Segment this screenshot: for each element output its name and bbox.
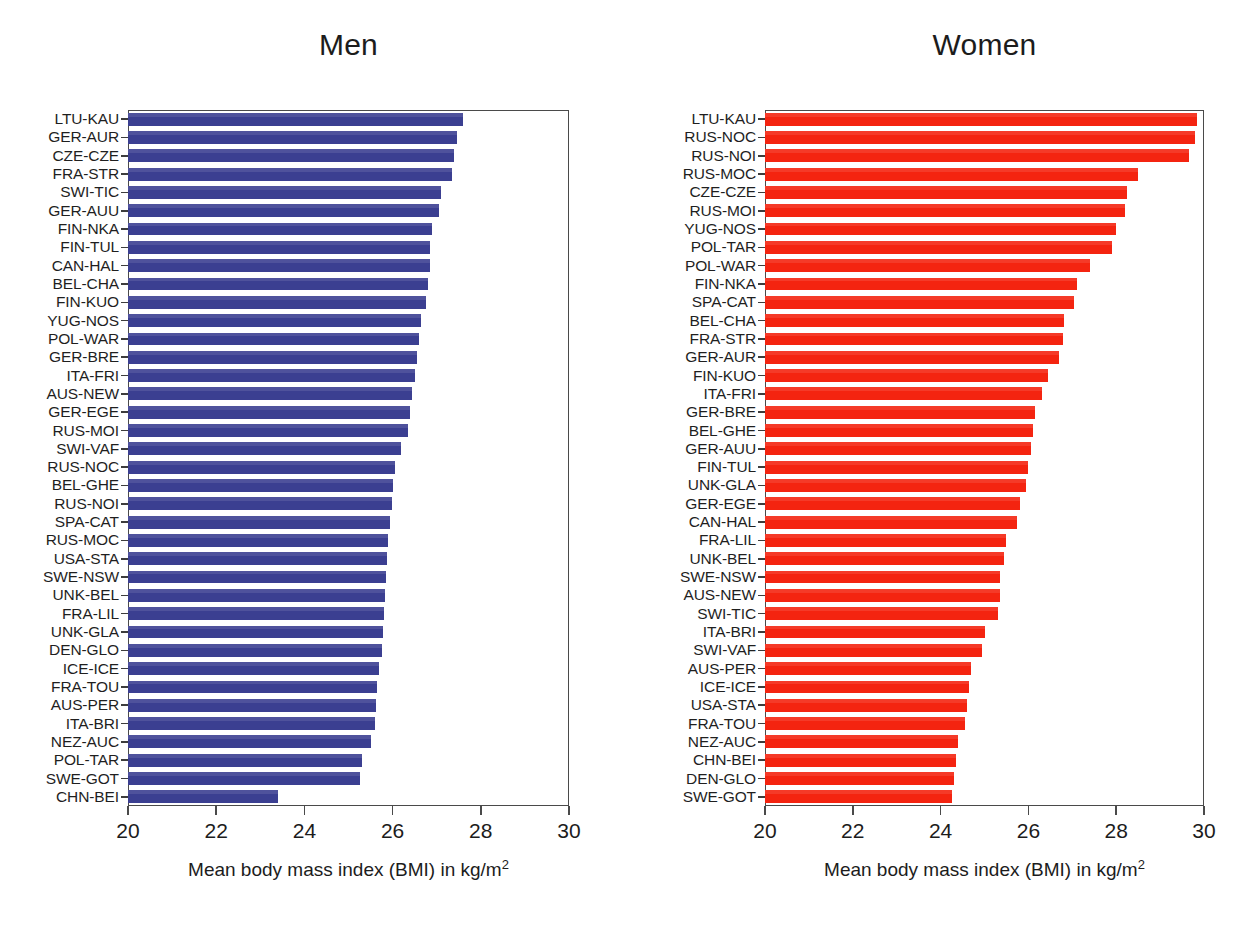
bar [128, 662, 379, 675]
bar-row: SWE-GOT [765, 790, 1204, 803]
bar-row: GER-BRE [128, 351, 569, 364]
category-tick [121, 411, 128, 413]
category-label-aus-new: AUS-NEW [47, 386, 120, 402]
bar-row: CHN-BEI [765, 754, 1204, 767]
bar [765, 589, 1000, 602]
category-label-ltu-kau: LTU-KAU [55, 111, 119, 127]
category-label-fra-str: FRA-STR [690, 331, 756, 347]
bar [765, 223, 1116, 236]
category-tick [121, 192, 128, 194]
category-tick [758, 595, 765, 597]
category-tick [758, 356, 765, 358]
category-label-cze-cze: CZE-CZE [53, 148, 119, 164]
x-axis-title-exponent: 2 [1138, 857, 1145, 872]
bar [128, 497, 392, 510]
x-tick-label-24: 24 [293, 819, 316, 843]
bar-highlight [765, 223, 1116, 227]
bar-row: GER-AUR [128, 131, 569, 144]
category-label-rus-noi: RUS-NOI [691, 148, 756, 164]
bar [128, 149, 454, 162]
category-label-ger-aur: GER-AUR [685, 349, 756, 365]
bar [128, 571, 386, 584]
category-label-bel-cha: BEL-CHA [53, 276, 120, 292]
bar-highlight [765, 479, 1026, 483]
category-tick [758, 540, 765, 542]
bar-highlight [765, 497, 1020, 501]
figure-root: Figure 2. Mean body mass index by popula… [0, 0, 1255, 932]
bar-row: FRA-TOU [128, 681, 569, 694]
bar-highlight [128, 607, 384, 611]
category-label-spa-cat: SPA-CAT [692, 294, 756, 310]
bar-row: GER-BRE [765, 406, 1204, 419]
bar [128, 754, 362, 767]
bar-highlight [128, 406, 410, 410]
bar-row: FRA-STR [128, 168, 569, 181]
bar [765, 314, 1064, 327]
bar-row: GER-EGE [765, 497, 1204, 510]
bar-highlight [128, 333, 419, 337]
category-tick [758, 704, 765, 706]
bar-row: LTU-KAU [128, 113, 569, 126]
category-label-spa-cat: SPA-CAT [55, 514, 119, 530]
category-tick [758, 796, 765, 798]
bar [765, 168, 1138, 181]
bar [128, 406, 410, 419]
category-label-ita-fri: ITA-FRI [67, 368, 119, 384]
category-label-swe-nsw: SWE-NSW [43, 569, 119, 585]
bar-row: ITA-FRI [765, 387, 1204, 400]
category-tick [758, 210, 765, 212]
bar-row: RUS-MOC [128, 534, 569, 547]
category-label-bel-ghe: BEL-GHE [52, 477, 119, 493]
bar [128, 131, 457, 144]
bar [765, 369, 1048, 382]
category-tick [121, 521, 128, 523]
bar-highlight [128, 223, 432, 227]
bar-row: AUS-NEW [765, 589, 1204, 602]
bar-highlight [765, 333, 1063, 337]
bar [128, 607, 384, 620]
bar-highlight [765, 552, 1004, 556]
bar [128, 333, 419, 346]
bar-row: FIN-NKA [765, 278, 1204, 291]
bar-row: DEN-GLO [128, 644, 569, 657]
category-tick [121, 338, 128, 340]
category-label-swe-got: SWE-GOT [683, 789, 756, 805]
bar-highlight [765, 113, 1197, 117]
category-tick [121, 540, 128, 542]
bar-highlight [765, 278, 1077, 282]
category-label-swe-got: SWE-GOT [46, 771, 119, 787]
bar [765, 497, 1020, 510]
bar-highlight [128, 754, 362, 758]
bar-highlight [128, 479, 393, 483]
bar [128, 681, 377, 694]
category-tick [758, 723, 765, 725]
bar [765, 113, 1197, 126]
category-label-ita-bri: ITA-BRI [66, 716, 119, 732]
bar [765, 387, 1042, 400]
bar-row: CZE-CZE [128, 149, 569, 162]
x-tick-label-28: 28 [469, 819, 492, 843]
bar-row: ITA-BRI [128, 717, 569, 730]
category-tick [758, 265, 765, 267]
bar-row: GER-AUR [765, 351, 1204, 364]
bar [128, 204, 439, 217]
category-label-swe-nsw: SWE-NSW [680, 569, 756, 585]
category-tick [758, 686, 765, 688]
bar-highlight [128, 131, 457, 135]
bar [765, 479, 1026, 492]
category-tick [758, 485, 765, 487]
bar [765, 754, 956, 767]
bar-highlight [765, 790, 952, 794]
category-label-ger-aur: GER-AUR [48, 129, 119, 145]
category-label-swi-tic: SWI-TIC [697, 606, 756, 622]
bar-row: UNK-BEL [765, 552, 1204, 565]
bar-row: NEZ-AUC [128, 735, 569, 748]
x-tick [392, 806, 394, 815]
x-tick [304, 806, 306, 815]
bar-highlight [765, 314, 1064, 318]
bar-highlight [765, 442, 1031, 446]
bar-row: CHN-BEI [128, 790, 569, 803]
category-tick [121, 137, 128, 139]
category-label-ger-bre: GER-BRE [49, 349, 119, 365]
bar-rows-women: LTU-KAURUS-NOCRUS-NOIRUS-MOCCZE-CZERUS-M… [765, 110, 1204, 806]
